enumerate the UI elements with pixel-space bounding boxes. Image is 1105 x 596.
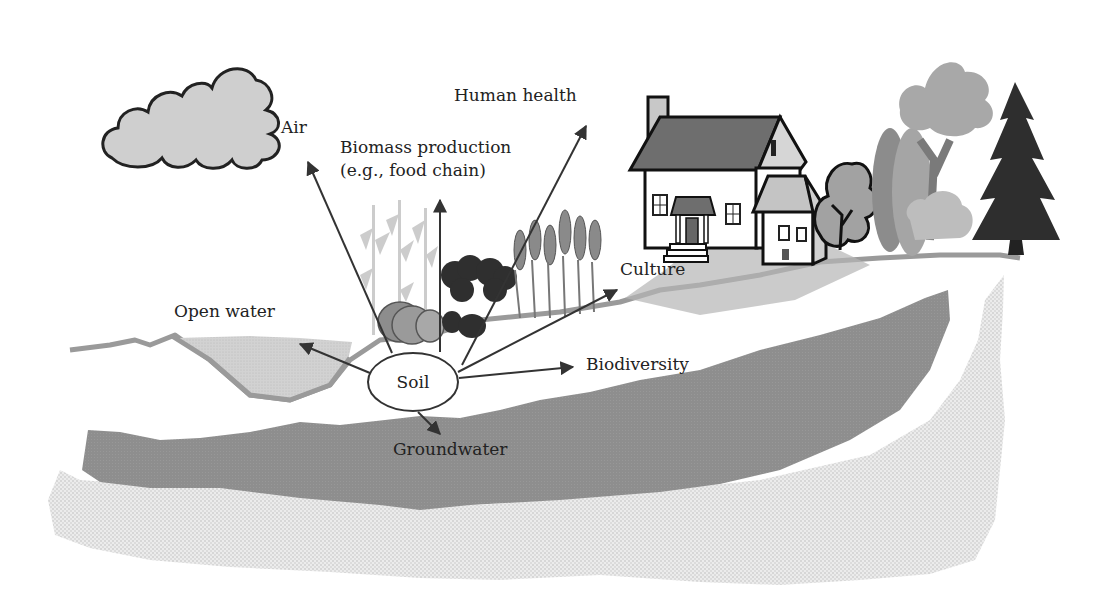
label-groundwater: Groundwater <box>393 439 508 459</box>
arrow-to-biodiversity <box>459 367 573 378</box>
label-biomass-line2: (e.g., food chain) <box>340 160 486 180</box>
soil-label: Soil <box>397 372 430 392</box>
open-water-basin <box>172 336 352 400</box>
soil-functions-diagram: Soil Air Biomass production (e.g., food … <box>0 0 1105 596</box>
label-culture: Culture <box>620 259 685 279</box>
soil-node: Soil <box>368 353 458 411</box>
label-biomass-line1: Biomass production <box>340 137 511 157</box>
cloud-icon <box>103 69 279 169</box>
trees-illustration <box>815 62 1060 256</box>
label-biodiversity: Biodiversity <box>586 354 689 374</box>
label-air: Air <box>280 117 308 137</box>
crops-illustration <box>360 200 601 344</box>
arrow-to-air <box>308 162 392 353</box>
label-human-health: Human health <box>454 85 577 105</box>
label-open-water: Open water <box>174 301 276 321</box>
